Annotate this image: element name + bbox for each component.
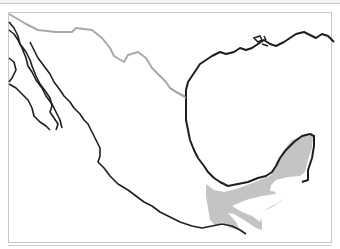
bottom-strip xyxy=(8,245,332,249)
baja-east-coast xyxy=(9,30,62,128)
rio-grande-border-end xyxy=(170,88,186,98)
gulf-coast xyxy=(186,32,334,186)
baja-small-inlet xyxy=(9,58,16,82)
map-canvas xyxy=(0,0,340,249)
us-mexico-border xyxy=(9,14,186,97)
